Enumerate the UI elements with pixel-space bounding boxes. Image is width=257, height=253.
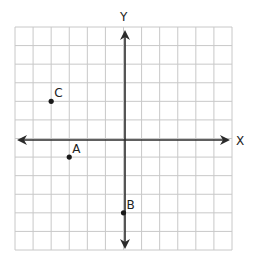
point-b bbox=[121, 210, 126, 215]
x-axis-label: X bbox=[236, 134, 244, 148]
coordinate-plane: X Y ABC bbox=[0, 0, 257, 253]
point-a bbox=[67, 154, 72, 159]
point-label-a: A bbox=[72, 142, 81, 156]
point-c bbox=[49, 99, 54, 104]
point-label-c: C bbox=[54, 86, 62, 100]
point-label-b: B bbox=[127, 198, 135, 212]
grid bbox=[15, 27, 232, 250]
y-axis-label: Y bbox=[119, 10, 128, 24]
points: ABC bbox=[49, 86, 135, 215]
